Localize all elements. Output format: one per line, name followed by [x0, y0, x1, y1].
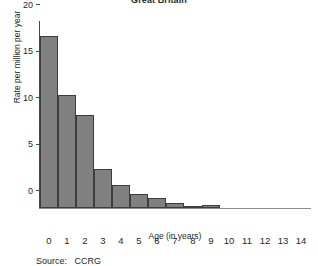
y-axis-tick-label: 0 — [28, 186, 33, 196]
chart-figure: Great Britain Rate per million per year … — [0, 0, 318, 266]
y-axis-tick-label: 20 — [23, 0, 33, 10]
bar — [148, 198, 166, 208]
bar — [58, 95, 76, 208]
bar — [76, 115, 94, 208]
bar — [94, 169, 112, 208]
source-value: CCRG — [75, 256, 102, 266]
bar — [184, 206, 202, 208]
y-axis-tick: 5 — [28, 135, 40, 153]
y-axis-tick: 15 — [23, 42, 40, 60]
source-note: Source: CCRG — [26, 246, 101, 266]
page-title: Great Britain — [0, 0, 318, 5]
y-axis-tick-mark — [36, 4, 40, 5]
x-axis-title: Age (in years) — [39, 231, 311, 241]
y-axis-tick: 20 — [23, 0, 40, 13]
y-axis-tick-label: 15 — [23, 46, 33, 56]
bar — [202, 205, 220, 208]
bar — [130, 194, 148, 208]
bar — [40, 36, 58, 208]
y-axis-tick-label: 10 — [23, 93, 33, 103]
bar — [112, 185, 130, 208]
bar — [166, 203, 184, 208]
y-axis-title: Rate per million per year — [12, 0, 22, 132]
source-label: Source: — [36, 256, 67, 266]
y-axis-tick: 10 — [23, 88, 40, 106]
source-spacer — [67, 256, 75, 266]
plot-area: 05101520 01234567891011121314 — [40, 22, 310, 208]
x-axis-line — [39, 208, 311, 209]
y-axis-tick: 0 — [28, 181, 40, 199]
y-axis-tick-label: 5 — [28, 139, 33, 149]
